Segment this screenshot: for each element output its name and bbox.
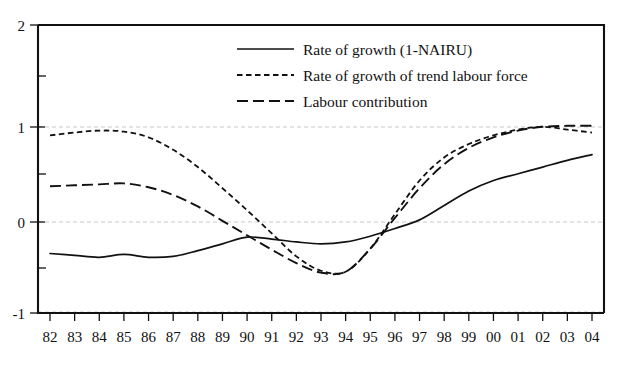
x-ticklabel-82: 82	[43, 329, 58, 345]
legend: Rate of growth (1-NAIRU) Rate of growth …	[237, 41, 528, 110]
x-ticklabel-97: 97	[412, 329, 428, 345]
x-ticklabel-96: 96	[387, 329, 403, 345]
series-line-labour-contribution	[50, 126, 592, 275]
x-ticklabel-00: 00	[486, 329, 501, 345]
line-chart: 2 1 0 -1 8283848586878889909192939495969…	[0, 0, 627, 365]
x-ticklabel-85: 85	[116, 329, 131, 345]
x-ticklabel-83: 83	[67, 329, 82, 345]
x-ticklabel-90: 90	[240, 329, 255, 345]
x-ticklabel-84: 84	[92, 329, 108, 345]
chart-figure: 2 1 0 -1 8283848586878889909192939495969…	[0, 0, 627, 365]
data-series	[50, 126, 592, 275]
y-ticklabel-1: 1	[18, 120, 26, 136]
y-ticklabel-0: 0	[18, 215, 26, 231]
x-ticklabel-01: 01	[511, 329, 526, 345]
legend-label-trend-labour-force: Rate of growth of trend labour force	[303, 67, 528, 84]
x-ticklabel-89: 89	[215, 329, 230, 345]
x-ticklabel-99: 99	[461, 329, 476, 345]
x-ticklabel-88: 88	[190, 329, 205, 345]
legend-label-labour-contribution: Labour contribution	[303, 93, 428, 110]
x-ticklabel-95: 95	[363, 329, 378, 345]
x-ticklabel-04: 04	[585, 329, 601, 345]
y-ticklabel-2: 2	[18, 18, 26, 34]
x-ticklabel-91: 91	[264, 329, 279, 345]
grid-lines	[38, 127, 604, 312]
x-ticklabel-93: 93	[314, 329, 329, 345]
y-ticklabel-neg1: -1	[13, 306, 26, 322]
series-line-rate-of-growth-1-nairu	[50, 155, 592, 258]
x-ticklabel-87: 87	[166, 329, 182, 345]
x-ticklabel-86: 86	[141, 329, 157, 345]
x-ticklabel-02: 02	[535, 329, 550, 345]
x-ticklabel-94: 94	[338, 329, 354, 345]
x-ticklabel-98: 98	[437, 329, 452, 345]
series-line-rate-of-growth-of-trend-labour-force	[50, 127, 592, 274]
x-ticklabel-03: 03	[560, 329, 575, 345]
x-ticklabel-92: 92	[289, 329, 304, 345]
y-axis-labels: 2 1 0 -1	[13, 18, 26, 322]
legend-label-rate-of-growth-nairu: Rate of growth (1-NAIRU)	[303, 41, 472, 59]
x-axis: 8283848586878889909192939495969798990001…	[43, 313, 601, 345]
